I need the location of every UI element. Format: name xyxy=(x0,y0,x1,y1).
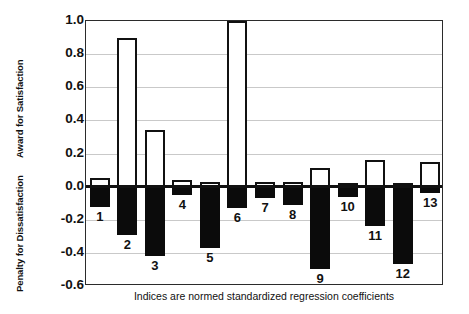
bar-award[interactable] xyxy=(227,21,247,187)
plot-area: 12345678910111213 xyxy=(85,20,443,285)
bar-index-label: 13 xyxy=(411,196,449,209)
bar-group[interactable]: 5 xyxy=(200,21,220,284)
y-tick-label: 0.6 xyxy=(34,80,84,94)
bar-index-label: 8 xyxy=(274,208,312,221)
bar-index-label: 12 xyxy=(384,267,422,280)
bar-group[interactable]: 8 xyxy=(283,21,303,284)
bar-penalty[interactable] xyxy=(200,187,220,248)
bar-penalty[interactable] xyxy=(145,187,165,257)
bar-group[interactable]: 9 xyxy=(310,21,330,284)
y-axis-title-upper: Award for Satisfaction xyxy=(14,60,25,158)
bar-index-label: 5 xyxy=(191,251,229,264)
bar-penalty[interactable] xyxy=(227,187,247,209)
y-tick-label: 0.2 xyxy=(34,146,84,160)
plot-inner: 12345678910111213 xyxy=(86,21,442,284)
bar-penalty[interactable] xyxy=(90,187,110,207)
bar-group[interactable]: 1 xyxy=(90,21,110,284)
bar-group[interactable]: 3 xyxy=(145,21,165,284)
y-tick-label: 0.0 xyxy=(34,179,84,193)
bar-group[interactable]: 11 xyxy=(365,21,385,284)
y-tick-label: 1.0 xyxy=(34,13,84,27)
bar-penalty[interactable] xyxy=(310,187,330,270)
bar-group[interactable]: 12 xyxy=(393,21,413,284)
bar-group[interactable]: 13 xyxy=(420,21,440,284)
y-tick-label: -0.2 xyxy=(34,212,84,226)
bar-award[interactable] xyxy=(365,160,385,187)
bar-award[interactable] xyxy=(420,162,440,187)
bar-penalty[interactable] xyxy=(283,187,303,205)
y-tick-label: -0.4 xyxy=(34,245,84,259)
y-axis-title-lower: Penalty for Dissatisfaction xyxy=(14,175,25,292)
bar-penalty[interactable] xyxy=(117,187,137,235)
bar-penalty[interactable] xyxy=(338,187,358,197)
bar-group[interactable]: 2 xyxy=(117,21,137,284)
bar-index-label: 2 xyxy=(108,238,146,251)
y-tick-label: 0.8 xyxy=(34,46,84,60)
y-axis-tick-labels: 1.00.80.60.40.20.0-0.2-0.4-0.6 xyxy=(34,20,84,285)
bar-group[interactable]: 4 xyxy=(172,21,192,284)
bar-index-label: 10 xyxy=(329,200,367,213)
y-tick-label: 0.4 xyxy=(34,113,84,127)
chart-figure: Award for Satisfaction Penalty for Dissa… xyxy=(0,0,469,314)
bar-award[interactable] xyxy=(310,168,330,186)
bar-penalty[interactable] xyxy=(365,187,385,227)
bar-index-label: 1 xyxy=(81,210,119,223)
bar-index-label: 3 xyxy=(136,259,174,272)
bar-penalty[interactable] xyxy=(393,187,413,265)
x-axis-caption: Indices are normed standardized regressi… xyxy=(85,290,443,302)
bar-award[interactable] xyxy=(145,130,165,186)
bar-index-label: 11 xyxy=(356,229,394,242)
bar-group[interactable]: 7 xyxy=(255,21,275,284)
bar-penalty[interactable] xyxy=(255,187,275,199)
bar-award[interactable] xyxy=(117,38,137,187)
bar-group[interactable]: 6 xyxy=(227,21,247,284)
zero-axis-line xyxy=(86,185,442,188)
bar-index-label: 4 xyxy=(163,198,201,211)
bar-index-label: 9 xyxy=(301,272,339,285)
bar-group[interactable]: 10 xyxy=(338,21,358,284)
y-tick-label: -0.6 xyxy=(34,278,84,292)
